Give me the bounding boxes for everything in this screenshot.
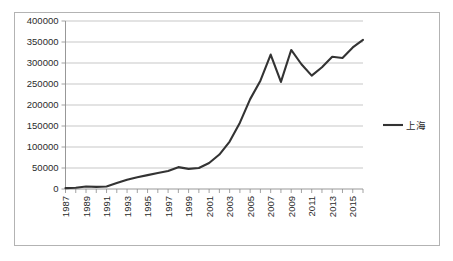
x-tick-label: 1993 <box>122 196 133 217</box>
y-tick-label: 0 <box>53 183 58 194</box>
x-tick-label: 1991 <box>101 196 112 217</box>
x-tick-label: 1989 <box>81 196 92 217</box>
y-tick-label: 50000 <box>32 162 58 173</box>
x-axis-labels: 1987198919911993199519971999200120032005… <box>60 196 358 217</box>
chart-legend: 上海 <box>383 120 426 131</box>
x-tick-label: 2015 <box>347 196 358 217</box>
line-chart: 0500001000001500002000002500003000003500… <box>0 0 453 261</box>
x-tick-label: 1997 <box>163 196 174 217</box>
x-tick-label: 2009 <box>286 196 297 217</box>
x-tick-label: 1995 <box>142 196 153 217</box>
gridlines <box>66 21 364 168</box>
y-tick-label: 400000 <box>27 15 59 26</box>
y-tick-label: 100000 <box>27 141 59 152</box>
y-tick-label: 200000 <box>27 99 59 110</box>
x-tick-label: 2001 <box>204 196 215 217</box>
x-tick-label: 1999 <box>183 196 194 217</box>
y-tick-label: 250000 <box>27 78 59 89</box>
legend-label: 上海 <box>406 120 426 131</box>
y-tick-label: 150000 <box>27 120 59 131</box>
y-tick-label: 300000 <box>27 57 59 68</box>
series-line <box>66 40 364 188</box>
y-axis-tickmarks <box>62 21 66 189</box>
x-tick-label: 2013 <box>327 196 338 217</box>
data-series <box>66 40 364 188</box>
x-tick-label: 2007 <box>265 196 276 217</box>
x-axis-tickmarks <box>66 189 364 193</box>
x-tick-label: 2011 <box>306 196 317 216</box>
x-tick-label: 2003 <box>224 196 235 217</box>
x-tick-label: 2005 <box>245 196 256 217</box>
y-axis-labels: 0500001000001500002000002500003000003500… <box>27 15 59 194</box>
x-tick-label: 1987 <box>60 196 71 217</box>
y-tick-label: 350000 <box>27 36 59 47</box>
